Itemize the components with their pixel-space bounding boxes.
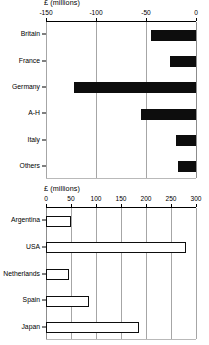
x-tick-mark--150 xyxy=(46,18,47,21)
bar xyxy=(46,322,139,333)
category-label-usa: USA xyxy=(26,243,40,251)
x-tick-mark--100 xyxy=(96,18,97,21)
bar xyxy=(178,161,196,172)
category-label-argentina: Argentina xyxy=(11,216,40,224)
bar xyxy=(46,242,186,253)
x-tick-mark-250 xyxy=(171,204,172,207)
gridline-x-250 xyxy=(171,208,172,339)
chart-top: £ (millions) -150-100-500BritainFranceGe… xyxy=(0,0,209,180)
y-tick-mark xyxy=(42,86,46,87)
y-tick-mark xyxy=(42,165,46,166)
chart-bottom-plot-area xyxy=(46,207,196,340)
chart-bottom-axis-title: £ (millions) xyxy=(44,185,80,193)
x-tick-label-100: 100 xyxy=(90,195,101,202)
gridline-x-200 xyxy=(146,208,147,339)
gridline-x-0 xyxy=(196,22,197,178)
x-tick-mark--50 xyxy=(146,18,147,21)
y-tick-mark xyxy=(42,246,46,247)
x-tick-label-50: 50 xyxy=(67,195,74,202)
bar xyxy=(176,135,196,146)
x-tick-mark-50 xyxy=(71,204,72,207)
y-tick-mark xyxy=(42,273,46,274)
category-label-britain: Britain xyxy=(21,30,40,38)
bar xyxy=(151,30,196,41)
bar xyxy=(141,109,196,120)
y-tick-mark xyxy=(42,34,46,35)
gridline-x-150 xyxy=(121,208,122,339)
x-tick-label--50: -50 xyxy=(141,9,151,16)
category-label-spain: Spain xyxy=(23,296,40,304)
bar xyxy=(46,216,71,227)
category-label-germany: Germany xyxy=(12,83,40,91)
y-tick-mark xyxy=(42,220,46,221)
x-tick-mark-300 xyxy=(196,204,197,207)
x-tick-mark-0 xyxy=(46,204,47,207)
bar xyxy=(74,82,196,93)
chart-top-axis-title: £ (millions) xyxy=(44,0,80,7)
y-tick-mark xyxy=(42,60,46,61)
category-label-netherlands: Netherlands xyxy=(3,270,40,278)
x-tick-label-0: 0 xyxy=(44,195,48,202)
x-tick-label-200: 200 xyxy=(140,195,151,202)
gridline-x-50 xyxy=(71,208,72,339)
category-label-japan: Japan xyxy=(21,323,40,331)
x-tick-label--100: -100 xyxy=(89,9,102,16)
figure-root: £ (millions) -150-100-500BritainFranceGe… xyxy=(0,0,209,345)
gridline-x--50 xyxy=(146,22,147,178)
y-tick-mark xyxy=(42,326,46,327)
y-tick-mark xyxy=(42,300,46,301)
category-label-france: France xyxy=(19,57,40,65)
gridline-x-100 xyxy=(96,208,97,339)
y-tick-mark xyxy=(42,139,46,140)
bar xyxy=(170,56,196,67)
chart-bottom: £ (millions) 050100150200250300Argentina… xyxy=(0,180,209,345)
x-tick-label-150: 150 xyxy=(115,195,126,202)
x-tick-label-0: 0 xyxy=(194,9,198,16)
x-tick-label-300: 300 xyxy=(190,195,201,202)
chart-top-plot-area xyxy=(46,21,196,179)
y-tick-mark xyxy=(42,113,46,114)
category-label-others: Others xyxy=(20,162,40,170)
x-tick-mark-200 xyxy=(146,204,147,207)
category-label-italy: Italy xyxy=(28,136,40,144)
bar xyxy=(46,269,69,280)
x-tick-mark-150 xyxy=(121,204,122,207)
bar xyxy=(46,296,89,307)
gridline-x--100 xyxy=(96,22,97,178)
x-tick-label--150: -150 xyxy=(39,9,52,16)
x-tick-mark-0 xyxy=(196,18,197,21)
category-label-a-h: A-H xyxy=(28,109,40,117)
gridline-x--150 xyxy=(46,22,47,178)
gridline-x-300 xyxy=(196,208,197,339)
x-tick-label-250: 250 xyxy=(165,195,176,202)
x-tick-mark-100 xyxy=(96,204,97,207)
